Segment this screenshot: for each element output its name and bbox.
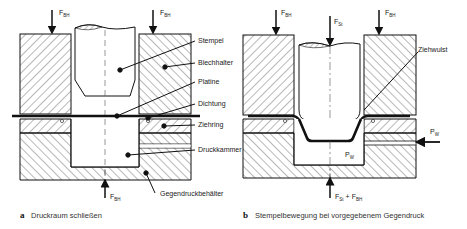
caption-b: Stempelbewegung bei vorgegebenem Gegendr… xyxy=(255,211,425,220)
force-label: FBH xyxy=(281,9,292,18)
force-label: FSt xyxy=(334,18,343,27)
seal-left xyxy=(283,119,286,122)
label-dichtung: Dichtung xyxy=(198,100,226,108)
force-label: FSt+FBH xyxy=(335,193,362,202)
hydromechanical-deep-drawing-diagram: FBH FBH FBH Stempel Blechhalter Platine … xyxy=(0,0,467,229)
label-gegendruckbehaelter: Gegendruckbehälter xyxy=(160,190,224,198)
panel-b: PW FBH FSt FBH FSt+FBH PW Ziehwulst b St… xyxy=(243,9,448,220)
label-blechhalter: Blechhalter xyxy=(198,59,234,66)
label-platine: Platine xyxy=(198,78,220,85)
caption-letter-a: a xyxy=(20,210,25,220)
label-ziehwulst: Ziehwulst xyxy=(418,46,448,53)
blank-holder-right xyxy=(364,35,416,115)
channel xyxy=(140,144,191,147)
seal-right xyxy=(371,119,374,122)
caption-letter-b: b xyxy=(243,210,248,220)
punch xyxy=(299,43,360,120)
seal-left xyxy=(60,119,63,122)
blank-holder-left xyxy=(20,34,71,114)
panel-a: FBH FBH FBH Stempel Blechhalter Platine … xyxy=(12,9,242,220)
blank-holder-left xyxy=(243,35,294,115)
force-label: FBH xyxy=(110,193,121,202)
label-stempel: Stempel xyxy=(198,37,224,45)
channel xyxy=(365,142,416,146)
side-pressure-label: PW xyxy=(430,128,440,137)
force-label: FBH xyxy=(59,9,70,18)
force-label: FBH xyxy=(160,9,171,18)
caption-a: Druckraum schließen xyxy=(31,211,102,220)
label-ziehring: Ziehring xyxy=(198,121,223,129)
force-label: FBH xyxy=(385,9,396,18)
label-druckkammer: Druckkammer xyxy=(198,146,242,153)
